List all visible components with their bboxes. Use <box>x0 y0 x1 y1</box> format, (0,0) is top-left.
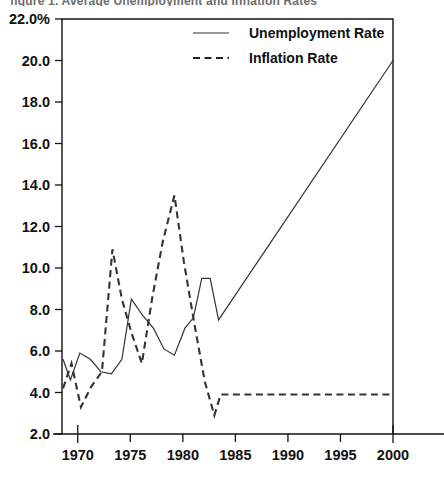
y-tick-label: 12.0 <box>22 219 50 235</box>
x-tick-label: 1975 <box>114 447 146 463</box>
x-tick-label: 1990 <box>272 447 304 463</box>
x-tick-label: 1970 <box>62 447 94 463</box>
y-tick-label: 8.0 <box>30 302 50 318</box>
legend-label-unemployment: Unemployment Rate <box>249 25 385 41</box>
x-tick-label: 2000 <box>377 447 409 463</box>
y-tick-label: 6.0 <box>30 343 50 359</box>
legend-label-inflation: Inflation Rate <box>249 50 338 66</box>
chart-plot-area: 2.04.06.08.010.012.014.016.018.020.022.0… <box>0 0 444 480</box>
y-tick-label: 16.0 <box>22 136 50 152</box>
x-tick-label: 1985 <box>219 447 251 463</box>
chart-container: figure 1. Average Unemployment and Infla… <box>0 0 444 480</box>
y-tick-label: 2.0 <box>30 426 50 442</box>
y-tick-label: 4.0 <box>30 385 50 401</box>
y-tick-label: 20.0 <box>22 53 50 69</box>
y-tick-label: 10.0 <box>22 260 50 276</box>
x-tick-label: 1995 <box>324 447 356 463</box>
x-tick-label: 1980 <box>167 447 199 463</box>
y-tick-label: 18.0 <box>22 94 50 110</box>
plot-background <box>62 19 393 434</box>
y-tick-label: 14.0 <box>22 177 50 193</box>
y-tick-label: 22.0% <box>9 11 50 27</box>
